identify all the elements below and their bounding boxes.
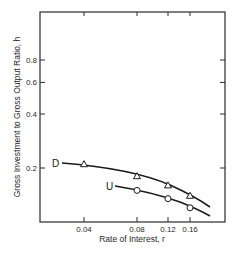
circle-marker (187, 205, 193, 211)
y-ticks: 0.20.40.60.8 (26, 56, 225, 173)
series-label-u: U (106, 181, 113, 192)
circle-marker (134, 187, 140, 193)
y-axis-title: Gross Investment to Gross Output Ratio, … (12, 36, 22, 197)
series-label-d: D (52, 158, 59, 169)
y-tick-label: 0.4 (26, 110, 38, 119)
triangle-marker (81, 161, 88, 167)
x-tick-label: 0.12 (160, 225, 176, 234)
x-ticks: 0.040.080.120.16 (76, 12, 198, 234)
series-line-d (62, 163, 210, 207)
x-tick-label: 0.04 (76, 225, 92, 234)
y-tick-label: 0.2 (26, 164, 38, 173)
chart: 0.040.080.120.16 0.20.40.60.8 D U Rate o… (0, 0, 238, 253)
series-line-u (115, 186, 210, 216)
series-markers (81, 161, 194, 211)
x-axis-title: Rate of Interest, r (99, 234, 165, 244)
circle-marker (165, 196, 171, 202)
plot-frame (40, 12, 225, 222)
y-tick-label: 0.6 (26, 78, 38, 87)
x-tick-label: 0.08 (129, 225, 145, 234)
x-tick-label: 0.16 (182, 225, 198, 234)
y-tick-label: 0.8 (26, 56, 38, 65)
